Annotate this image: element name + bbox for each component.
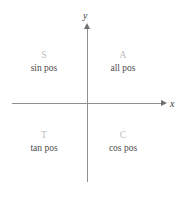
quadrant-letter-sin: S xyxy=(5,51,83,61)
quadrant-letter-tan: T xyxy=(5,131,83,141)
x-axis-label: x xyxy=(170,99,174,109)
quadrant-label-sin: S sin pos xyxy=(5,51,83,74)
cast-diagram-canvas: x y S sin pos A all pos T tan pos C cos … xyxy=(0,0,183,197)
y-axis-label: y xyxy=(83,11,87,21)
x-axis-line xyxy=(12,103,164,104)
quadrant-label-tan: T tan pos xyxy=(5,131,83,154)
y-axis-arrow-icon xyxy=(84,23,90,29)
quadrant-text-tan: tan pos xyxy=(5,144,83,154)
quadrant-label-cos: C cos pos xyxy=(84,131,162,154)
quadrant-text-all: all pos xyxy=(84,64,162,74)
quadrant-letter-all: A xyxy=(84,51,162,61)
quadrant-text-cos: cos pos xyxy=(84,144,162,154)
quadrant-text-sin: sin pos xyxy=(5,64,83,74)
x-axis-arrow-icon xyxy=(161,100,167,106)
quadrant-letter-cos: C xyxy=(84,131,162,141)
quadrant-label-all: A all pos xyxy=(84,51,162,74)
